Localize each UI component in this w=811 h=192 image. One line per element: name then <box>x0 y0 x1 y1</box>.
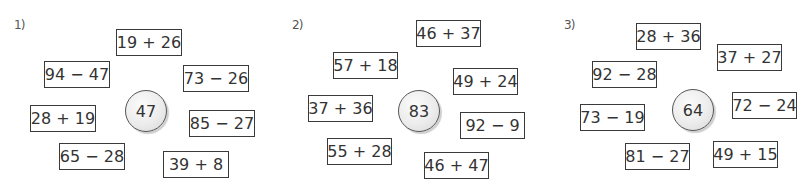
expression-box[interactable]: 28 + 36 <box>636 23 701 50</box>
expression-box[interactable]: 39 + 8 <box>163 151 229 178</box>
expression-box[interactable]: 65 − 28 <box>59 143 125 170</box>
exercise-panel-2: 2) 46 + 37 57 + 18 49 + 24 37 + 36 83 92… <box>270 0 540 192</box>
expression-box[interactable]: 73 − 26 <box>183 65 249 92</box>
expression-box[interactable]: 37 + 27 <box>717 44 782 71</box>
exercise-panel-1: 1) 19 + 26 94 − 47 73 − 26 28 + 19 47 85… <box>0 0 270 192</box>
expression-box[interactable]: 57 + 18 <box>333 52 398 79</box>
expression-box[interactable]: 28 + 19 <box>30 105 96 132</box>
exercise-panel-3: 3) 28 + 36 37 + 27 92 − 28 73 − 19 64 72… <box>540 0 811 192</box>
target-number-circle: 83 <box>398 90 440 132</box>
expression-box[interactable]: 37 + 36 <box>308 95 373 122</box>
expression-box[interactable]: 85 − 27 <box>189 110 255 137</box>
expression-box[interactable]: 46 + 47 <box>424 152 489 179</box>
expression-box[interactable]: 92 − 9 <box>460 112 525 139</box>
expression-box[interactable]: 72 − 24 <box>732 92 797 119</box>
target-number-circle: 47 <box>125 90 167 132</box>
expression-box[interactable]: 81 − 27 <box>625 143 690 170</box>
expression-box[interactable]: 92 − 28 <box>592 61 657 88</box>
exercise-number: 2) <box>292 18 302 32</box>
target-number-circle: 64 <box>672 89 714 131</box>
expression-box[interactable]: 19 + 26 <box>116 29 182 56</box>
exercise-number: 1) <box>14 18 24 32</box>
expression-box[interactable]: 55 + 28 <box>327 138 392 165</box>
expression-box[interactable]: 46 + 37 <box>416 20 481 47</box>
expression-box[interactable]: 94 − 47 <box>44 61 110 88</box>
exercise-number: 3) <box>564 18 574 32</box>
expression-box[interactable]: 73 − 19 <box>580 104 645 131</box>
expression-box[interactable]: 49 + 15 <box>713 141 778 168</box>
expression-box[interactable]: 49 + 24 <box>453 68 518 95</box>
